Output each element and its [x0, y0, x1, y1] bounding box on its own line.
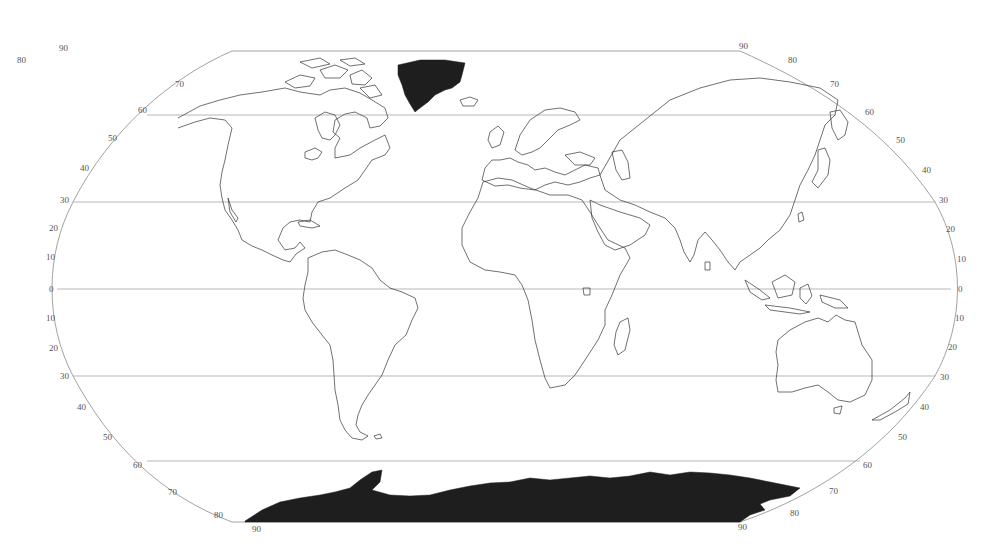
- lat-label: 10: [957, 254, 967, 264]
- lat-label: 20: [946, 224, 956, 234]
- lat-label: 80: [788, 55, 798, 65]
- black-sea: [565, 152, 595, 165]
- great-lakes: [305, 148, 322, 160]
- lat-label: 70: [168, 487, 178, 497]
- north-america-coastline: [178, 88, 390, 262]
- lat-label: 40: [80, 163, 90, 173]
- cuba: [298, 220, 320, 228]
- antarctica: [245, 470, 800, 522]
- lat-label: 90: [738, 522, 748, 532]
- lat-label: 30: [60, 195, 70, 205]
- lat-label: 10: [46, 252, 56, 262]
- lat-label: 40: [77, 402, 87, 412]
- kamchatka: [830, 110, 848, 140]
- hudson-bay: [315, 112, 340, 140]
- lat-label: 50: [898, 432, 908, 442]
- lat-label: 50: [108, 133, 118, 143]
- latitude-labels-left: 90 80 70 60 50 40 30 20 10 0 10 20 30 40…: [17, 43, 262, 534]
- lat-label: 30: [939, 195, 949, 205]
- lat-label: 40: [922, 165, 932, 175]
- lat-label: 70: [830, 79, 840, 89]
- south-america-coastline: [303, 250, 418, 440]
- lat-label: 40: [920, 402, 930, 412]
- indonesia-islands: [745, 275, 848, 314]
- baja-california: [228, 198, 238, 222]
- lat-label: 60: [138, 105, 148, 115]
- lat-label: 90: [59, 43, 69, 53]
- caspian-sea: [612, 150, 630, 180]
- greenland: [398, 60, 465, 112]
- lat-label: 50: [103, 432, 113, 442]
- lat-label: 90: [252, 524, 262, 534]
- falkland-islands: [374, 434, 382, 439]
- lat-label: 70: [829, 486, 839, 496]
- lat-label: 0: [958, 284, 963, 294]
- lat-label: 60: [865, 107, 875, 117]
- map-outline: [52, 51, 958, 522]
- lat-label: 30: [940, 372, 950, 382]
- lat-label: 80: [17, 55, 27, 65]
- lat-label: 80: [214, 510, 224, 520]
- lat-label: 80: [790, 508, 800, 518]
- lat-label: 20: [49, 343, 59, 353]
- iceland: [460, 97, 478, 106]
- lat-label: 0: [49, 284, 54, 294]
- british-isles: [488, 126, 504, 148]
- lat-label: 20: [948, 342, 958, 352]
- lat-label: 60: [863, 460, 873, 470]
- world-map: 90 80 70 60 50 40 30 20 10 0 10 20 30 40…: [0, 0, 1006, 551]
- lat-label: 10: [955, 313, 965, 323]
- africa-coastline: [462, 178, 630, 388]
- latitude-gridlines: [57, 115, 951, 461]
- lat-label: 30: [60, 371, 70, 381]
- lat-label: 60: [133, 460, 143, 470]
- tasmania: [834, 406, 842, 414]
- world-map-svg: 90 80 70 60 50 40 30 20 10 0 10 20 30 40…: [0, 0, 1006, 551]
- taiwan: [798, 212, 804, 222]
- europe-coastline: [482, 158, 600, 190]
- madagascar: [614, 318, 630, 355]
- lat-label: 70: [175, 79, 185, 89]
- japan: [812, 148, 830, 188]
- sri-lanka: [705, 262, 710, 270]
- lat-label: 10: [46, 313, 56, 323]
- lat-label: 90: [739, 41, 749, 51]
- lat-label: 20: [49, 223, 59, 233]
- lat-label: 50: [896, 135, 906, 145]
- australia-coastline: [776, 315, 872, 402]
